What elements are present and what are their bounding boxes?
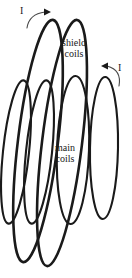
coil-diagram-figure: shield coils main coils I I (0, 0, 132, 278)
main-coil-outer-left-ellipse (0, 79, 36, 225)
current-label-left: I (20, 5, 23, 16)
current-arrow-left-icon (27, 12, 45, 28)
main-coil-right-ellipse (89, 77, 119, 219)
coil-diagram-svg (0, 0, 132, 278)
current-label-right: I (118, 62, 121, 73)
shield-coils-group (3, 17, 97, 268)
current-arrow-left-head-icon (44, 9, 51, 16)
current-arrow-right-head-icon (101, 63, 108, 70)
